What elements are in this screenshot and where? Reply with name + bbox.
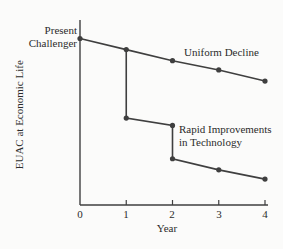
data-point-marker bbox=[170, 58, 175, 63]
series-line-1 bbox=[126, 50, 265, 180]
data-point-marker bbox=[216, 167, 221, 172]
uniform-decline-annotation: Uniform Decline bbox=[184, 46, 259, 59]
euac-chart-figure: Present Challenger Uniform Decline Rapid… bbox=[0, 0, 283, 249]
x-axis-title: Year bbox=[157, 222, 177, 235]
x-tick-label-0: 0 bbox=[77, 208, 83, 221]
data-point-marker bbox=[170, 123, 175, 128]
rapid-improvements-annotation: Rapid Improvements in Technology bbox=[179, 123, 272, 150]
present-challenger-annotation: Present Challenger bbox=[29, 24, 77, 51]
data-point-marker bbox=[77, 36, 82, 41]
x-tick-label-3: 3 bbox=[216, 208, 222, 221]
data-point-marker bbox=[170, 156, 175, 161]
y-axis-title: EUAC at Economic Life bbox=[13, 48, 26, 182]
data-point-marker bbox=[124, 115, 129, 120]
x-tick-label-1: 1 bbox=[123, 208, 129, 221]
data-point-marker bbox=[216, 67, 221, 72]
data-point-marker bbox=[262, 78, 267, 83]
x-tick-label-2: 2 bbox=[169, 208, 175, 221]
x-tick-label-4: 4 bbox=[262, 208, 268, 221]
data-point-marker bbox=[262, 177, 267, 182]
